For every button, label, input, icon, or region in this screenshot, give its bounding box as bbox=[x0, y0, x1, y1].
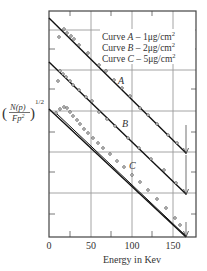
x-axis-title: Energy in Kev bbox=[103, 254, 161, 265]
svg-text:): ) bbox=[30, 105, 35, 122]
legend-entry-b: Curve B – 2μg/cm2 bbox=[102, 41, 175, 53]
y-axis-title: ( N(p) Fp2 ) 1/2 bbox=[2, 98, 44, 123]
legend-entry-a: Curve A – 1μg/cm2 bbox=[102, 30, 175, 42]
curve-c: C bbox=[49, 106, 189, 237]
svg-text:50: 50 bbox=[86, 240, 96, 251]
svg-text:100: 100 bbox=[125, 240, 140, 251]
chart: A B C Cu bbox=[0, 0, 207, 271]
svg-text:1/2: 1/2 bbox=[35, 98, 44, 106]
svg-text:(: ( bbox=[2, 105, 7, 122]
curve-b-label: B bbox=[122, 118, 128, 129]
curve-c-label: C bbox=[129, 160, 136, 171]
curve-a-label: A bbox=[117, 75, 125, 86]
svg-text:Fp2: Fp2 bbox=[11, 113, 24, 123]
svg-text:150: 150 bbox=[166, 240, 181, 251]
svg-text:0: 0 bbox=[47, 240, 52, 251]
x-tick-labels: 0 50 100 150 bbox=[47, 240, 181, 251]
legend-entry-c: Curve C – 5μg/cm2 bbox=[102, 52, 176, 64]
legend: Curve A – 1μg/cm2 Curve B – 2μg/cm2 Curv… bbox=[100, 29, 195, 64]
svg-text:N(p): N(p) bbox=[9, 102, 26, 112]
